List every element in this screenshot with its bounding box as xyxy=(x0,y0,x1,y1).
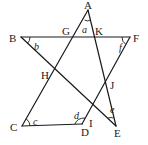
label-point-k: K xyxy=(95,25,103,37)
angle-arc-a xyxy=(85,20,91,21)
label-point-c: C xyxy=(10,121,17,133)
segment-a-c xyxy=(22,10,88,126)
angle-arc-f xyxy=(122,37,126,44)
label-angle-a: a xyxy=(82,24,87,35)
geometry-diagram: A B C D E F G K H I J a b c d e f xyxy=(0,0,148,145)
segment-c-d xyxy=(22,124,82,126)
label-point-h: H xyxy=(41,69,49,81)
angle-arc-b xyxy=(28,37,31,44)
label-point-e: E xyxy=(114,127,121,139)
label-angle-c: c xyxy=(33,116,38,127)
label-angle-e: e xyxy=(110,104,115,115)
label-point-f: F xyxy=(133,32,139,44)
label-point-j: J xyxy=(110,79,115,91)
label-point-b: B xyxy=(9,32,16,44)
label-angle-b: b xyxy=(34,41,39,52)
angle-arc-e xyxy=(108,118,114,119)
segment-f-d xyxy=(82,37,130,124)
label-point-a: A xyxy=(84,0,92,11)
label-point-g: G xyxy=(62,25,70,37)
label-point-d: D xyxy=(81,126,89,138)
angle-arc-c xyxy=(27,119,31,126)
label-point-i: I xyxy=(89,117,93,129)
